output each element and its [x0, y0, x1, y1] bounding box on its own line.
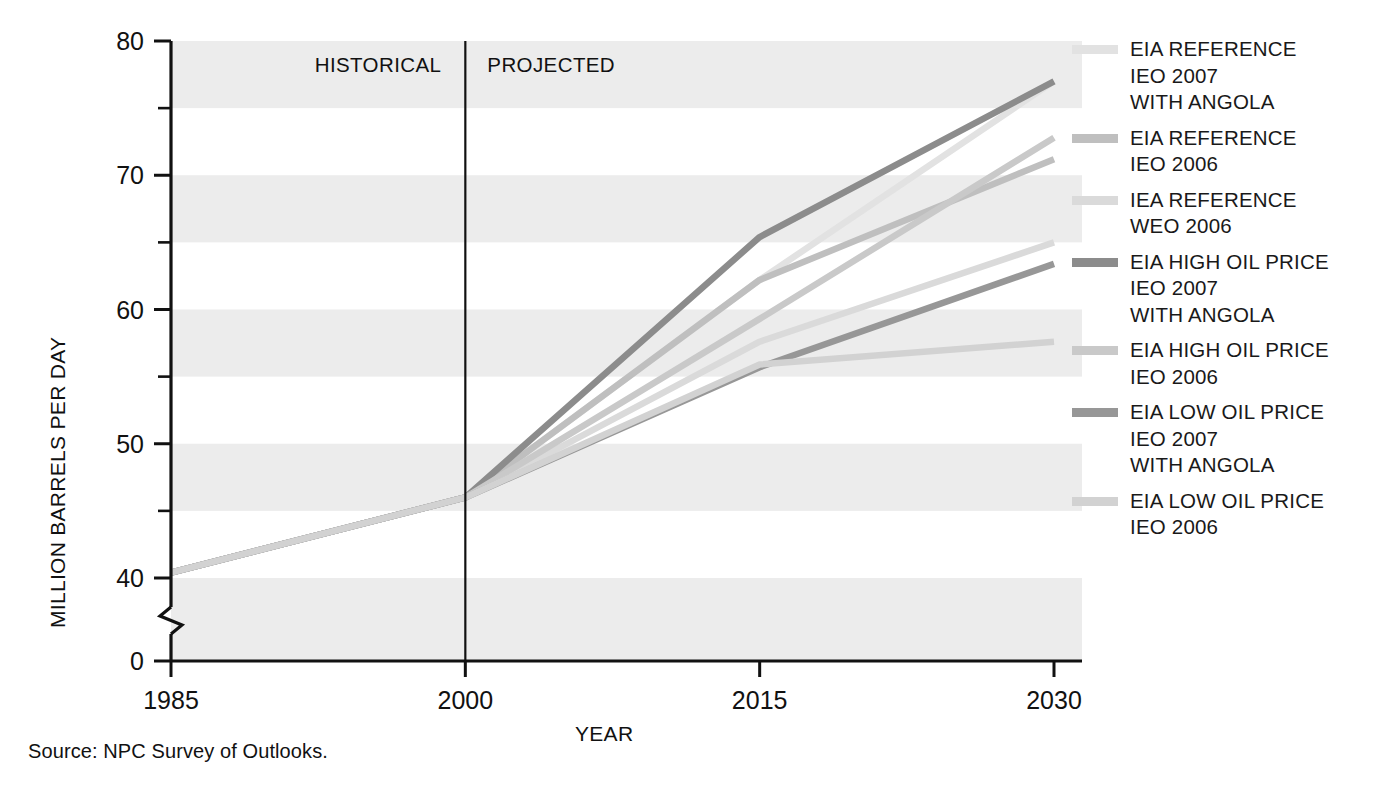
projected-label: PROJECTED — [487, 53, 615, 76]
legend-item-label: EIA HIGH OIL PRICE IEO 2006 — [1130, 337, 1329, 390]
legend-item-5[interactable]: EIA LOW OIL PRICE IEO 2007 WITH ANGOLA — [1072, 399, 1392, 479]
legend-item-label: EIA HIGH OIL PRICE IEO 2007 WITH ANGOLA — [1130, 249, 1329, 329]
chart-figure: 807060504001985200020152030 HISTORICALPR… — [0, 0, 1397, 810]
tick-label: 50 — [116, 430, 144, 458]
legend-item-0[interactable]: EIA REFERENCE IEO 2007 WITH ANGOLA — [1072, 36, 1392, 116]
historical-label: HISTORICAL — [315, 53, 442, 76]
tick-label: 0 — [130, 647, 144, 675]
tick-label: 2000 — [438, 686, 494, 714]
legend-item-label: EIA LOW OIL PRICE IEO 2007 WITH ANGOLA — [1130, 399, 1324, 479]
legend-item-2[interactable]: IEA REFERENCE WEO 2006 — [1072, 187, 1392, 240]
legend-item-label: EIA LOW OIL PRICE IEO 2006 — [1130, 488, 1324, 541]
legend-item-6[interactable]: EIA LOW OIL PRICE IEO 2006 — [1072, 488, 1392, 541]
tick-label: 60 — [116, 296, 144, 324]
legend-item-label: EIA REFERENCE IEO 2006 — [1130, 125, 1297, 178]
tick-label: 80 — [116, 27, 144, 55]
legend-item-label: EIA REFERENCE IEO 2007 WITH ANGOLA — [1130, 36, 1297, 116]
source-note: Source: NPC Survey of Outlooks. — [28, 740, 328, 763]
tick-label: 2030 — [1026, 686, 1082, 714]
x-axis-title: YEAR — [575, 722, 633, 746]
tick-label: 70 — [116, 161, 144, 189]
legend-swatch-icon — [1072, 346, 1118, 355]
legend-swatch-icon — [1072, 196, 1118, 205]
legend-item-4[interactable]: EIA HIGH OIL PRICE IEO 2006 — [1072, 337, 1392, 390]
legend-item-3[interactable]: EIA HIGH OIL PRICE IEO 2007 WITH ANGOLA — [1072, 249, 1392, 329]
legend-swatch-icon — [1072, 258, 1118, 267]
y-axis-title: MILLION BARRELS PER DAY — [46, 337, 70, 628]
legend-item-1[interactable]: EIA REFERENCE IEO 2006 — [1072, 125, 1392, 178]
legend-swatch-icon — [1072, 45, 1118, 54]
tick-label: 1985 — [143, 686, 199, 714]
tick-label: 2015 — [732, 686, 788, 714]
legend-swatch-icon — [1072, 134, 1118, 143]
legend-swatch-icon — [1072, 497, 1118, 506]
chart-legend: EIA REFERENCE IEO 2007 WITH ANGOLAEIA RE… — [1072, 36, 1392, 550]
legend-item-label: IEA REFERENCE WEO 2006 — [1130, 187, 1297, 240]
legend-swatch-icon — [1072, 408, 1118, 417]
tick-label: 40 — [116, 564, 144, 592]
